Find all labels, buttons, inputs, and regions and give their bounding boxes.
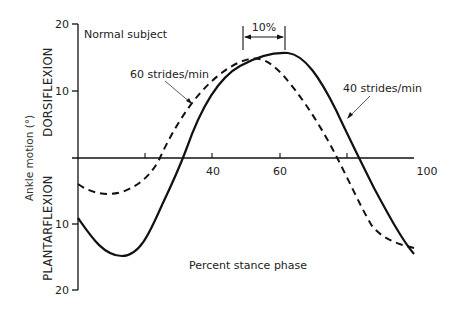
x-tick-label: 60 <box>273 165 287 178</box>
y-tick-label: 20 <box>55 284 69 297</box>
x-tick-label: 100 <box>417 165 438 178</box>
ankle-motion-chart: 20 10 10 20 40 60 100 Ankle motion (°) D… <box>0 0 450 314</box>
y-tick-label: 20 <box>55 18 69 31</box>
x-tick-label: 40 <box>206 165 220 178</box>
series-label-60: 60 strides/min <box>130 68 209 81</box>
y-tick-label: 10 <box>55 85 69 98</box>
y-tick-label: 10 <box>55 218 69 231</box>
x-axis-label: Percent stance phase <box>189 259 307 272</box>
y-axis-label: Ankle motion (°) <box>23 115 35 201</box>
subject-label: Normal subject <box>84 28 168 41</box>
dorsiflexion-label: DORSIFLEXION <box>41 47 55 136</box>
series-label-40: 40 strides/min <box>343 82 422 95</box>
bracket-label: 10% <box>252 21 276 34</box>
plantarflexion-label: PLANTARFLEXION <box>41 175 55 280</box>
